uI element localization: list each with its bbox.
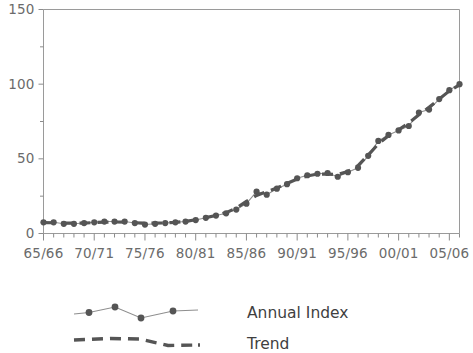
x-axis: 65/6670/7175/7680/8185/8690/9195/9600/01…: [24, 234, 470, 261]
trend-line: [44, 85, 460, 223]
x-axis-tick-label: 75/76: [125, 245, 165, 261]
x-axis-tick-label: 90/91: [277, 245, 317, 261]
annual-index-marker: [264, 192, 270, 198]
annual-index-marker: [375, 138, 381, 144]
x-axis-tick-label: 00/01: [379, 245, 419, 261]
legend-label-trend: Trend: [246, 335, 289, 353]
legend-annual-index-sample-marker: [138, 315, 145, 322]
x-axis-tick-label: 85/86: [226, 245, 266, 261]
plot-frame-group: [44, 10, 460, 234]
y-axis-tick-label: 0: [26, 225, 35, 241]
y-axis-tick-label: 100: [8, 76, 34, 92]
annual-index-line: [44, 84, 460, 224]
series-annual-index: [40, 81, 462, 228]
y-axis: 050100150: [8, 1, 43, 241]
chart-figure: 05010015065/6670/7175/7680/8185/8690/919…: [0, 0, 473, 353]
legend-trend-sample-line: [74, 339, 200, 346]
legend-annual-index-sample-marker: [112, 304, 119, 311]
legend-annual-index-sample-marker: [86, 309, 93, 316]
annual-index-marker: [233, 207, 239, 213]
legend-annual-index-sample-line: [74, 307, 198, 318]
x-axis-tick-label: 80/81: [176, 245, 216, 261]
annual-index-marker: [162, 220, 168, 226]
x-axis-tick-label: 95/96: [328, 245, 368, 261]
series-trend: [44, 85, 460, 223]
legend-annual-index-sample-marker: [170, 308, 177, 315]
x-axis-tick-label: 65/66: [24, 245, 64, 261]
x-axis-tick-label: 70/71: [74, 245, 114, 261]
annual-index-marker: [406, 123, 412, 129]
y-axis-tick-label: 50: [17, 150, 35, 166]
y-axis-tick-label: 150: [8, 1, 34, 17]
x-axis-tick-label: 05/06: [429, 245, 469, 261]
annual-index-marker: [335, 174, 341, 180]
legend-label-annual-index: Annual Index: [247, 304, 348, 322]
plot-frame: [44, 10, 460, 234]
annual-index-marker: [91, 219, 97, 225]
chart-legend: Annual IndexTrend: [74, 304, 348, 353]
